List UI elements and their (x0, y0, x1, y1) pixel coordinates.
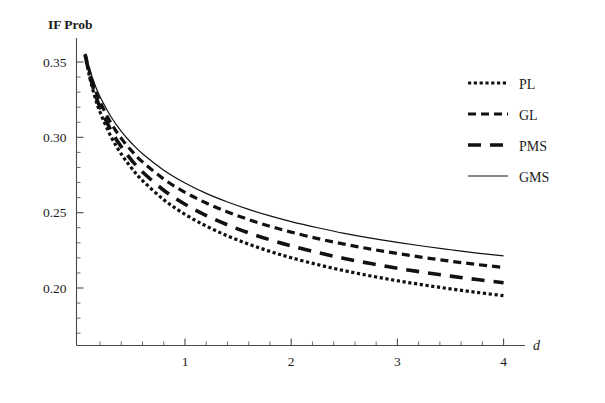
legend-label-pms: PMS (519, 139, 547, 154)
x-axis-tick-labels: 1234 (182, 354, 508, 369)
legend-label-pl: PL (519, 77, 535, 92)
y-tick-label: 0.20 (43, 281, 67, 296)
if-prob-line-chart: IF Prob d 0.200.250.300.35 1234 PLGLPMSG… (0, 0, 605, 403)
curve-gms (85, 54, 503, 256)
legend-label-gms: GMS (519, 170, 549, 185)
x-axis-title: d (533, 338, 541, 353)
curve-gl (85, 54, 503, 267)
y-tick-label: 0.25 (43, 205, 67, 220)
chart-figure: IF Prob d 0.200.250.300.35 1234 PLGLPMSG… (0, 0, 605, 403)
y-axis-ticks (77, 62, 84, 333)
y-tick-label: 0.35 (43, 55, 67, 70)
chart-curves (85, 54, 503, 296)
x-tick-label: 2 (288, 354, 295, 369)
y-axis-tick-labels: 0.200.250.300.35 (43, 55, 67, 296)
chart-legend: PLGLPMSGMS (468, 77, 549, 185)
x-tick-label: 4 (500, 354, 507, 369)
x-axis-ticks (100, 339, 504, 346)
legend-label-gl: GL (519, 108, 538, 123)
y-tick-label: 0.30 (43, 130, 67, 145)
x-tick-label: 3 (394, 354, 401, 369)
x-tick-label: 1 (182, 354, 189, 369)
y-axis-title: IF Prob (48, 17, 93, 32)
